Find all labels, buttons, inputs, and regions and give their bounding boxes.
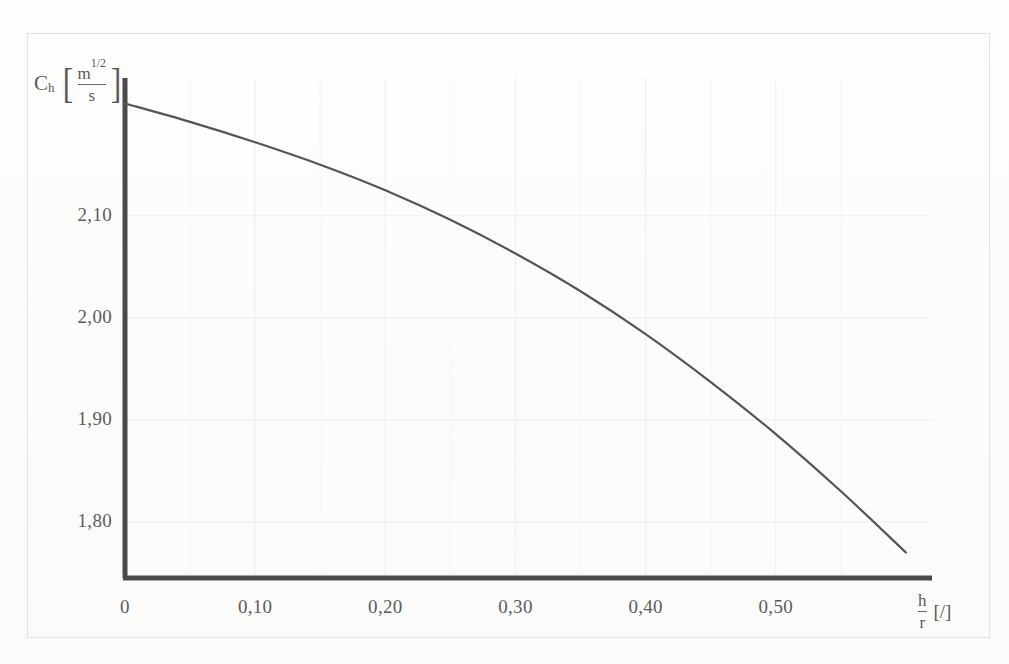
x-axis-denominator: r — [919, 614, 925, 631]
y-axis-unit-numerator: m1/2 — [78, 62, 107, 82]
y-axis-unit-group: [ m1/2 s ] — [61, 62, 124, 104]
figure-page: Ch [ m1/2 s ] h r [/] 1,801,902,002,10 0… — [0, 0, 1009, 664]
grid-lines — [125, 78, 932, 578]
unit-numerator-exponent: 1/2 — [91, 56, 106, 70]
x-tick-label: 0,40 — [601, 596, 691, 618]
unit-numerator-text: m — [78, 64, 91, 83]
x-axis-unit: [/] — [934, 601, 952, 623]
chart-canvas — [0, 0, 1009, 664]
bracket-open: [ — [62, 67, 73, 100]
y-axis-symbol: C — [34, 71, 48, 96]
y-tick-label: 2,00 — [30, 306, 112, 328]
x-tick-label: 0,50 — [731, 596, 821, 618]
x-tick-label: 0,20 — [340, 596, 430, 618]
x-tick-label: 0 — [80, 596, 170, 618]
fraction-bar — [918, 611, 927, 612]
axes — [123, 78, 932, 578]
bracket-close: ] — [111, 67, 122, 100]
y-axis-unit-fraction: m1/2 s — [75, 62, 110, 104]
x-axis-title: h r [/] — [915, 592, 951, 632]
fraction-bar — [78, 84, 107, 85]
y-axis-title: Ch [ m1/2 s ] — [34, 62, 123, 104]
y-tick-label: 2,10 — [30, 204, 112, 226]
x-tick-label: 0,10 — [210, 596, 300, 618]
y-tick-label: 1,90 — [30, 408, 112, 430]
x-axis-numerator: h — [918, 592, 927, 609]
y-axis-unit-denominator: s — [88, 87, 95, 104]
y-axis-subscript: h — [48, 80, 55, 96]
x-tick-label: 0,30 — [470, 596, 560, 618]
y-tick-label: 1,80 — [30, 510, 112, 532]
x-axis-ratio-fraction: h r — [915, 592, 930, 632]
